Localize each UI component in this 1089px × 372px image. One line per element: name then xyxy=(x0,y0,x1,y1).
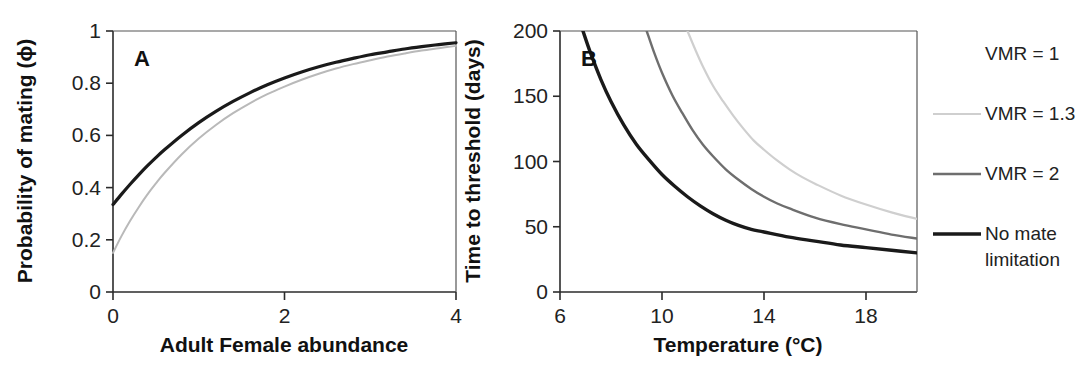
panel-a-yticks-label: 1 xyxy=(89,19,101,42)
panel-a-letter: A xyxy=(134,46,150,71)
series-line xyxy=(583,31,917,253)
panel-a-x-axis-title: Adult Female abundance xyxy=(160,333,409,356)
panel-a-yticks-label: 0.6 xyxy=(72,123,101,146)
panel-a-series-group xyxy=(113,43,456,253)
panel-a-yticks-label: 0.8 xyxy=(72,71,101,94)
panel-b-letter: B xyxy=(581,46,597,71)
panel-a-xticks-label: 0 xyxy=(107,304,119,327)
panel-b-y-ticks: 050100150200 xyxy=(513,19,560,303)
panel-b-x-axis-title: Temperature (°C) xyxy=(653,333,822,356)
panel-b-yticks-label: 150 xyxy=(513,84,548,107)
panel-b-xticks-label: 18 xyxy=(854,304,877,327)
panel-a-yticks-label: 0 xyxy=(89,280,101,303)
legend-label: VMR = 1 xyxy=(985,43,1059,64)
legend-label-line2: limitation xyxy=(985,249,1060,270)
series-line xyxy=(113,43,456,205)
legend: VMR = 1VMR = 1.3VMR = 2No matelimitation xyxy=(933,43,1075,270)
panel-a-yticks-label: 0.4 xyxy=(72,176,102,199)
panel-a-y-axis-title: Probability of mating (ϕ) xyxy=(13,39,36,283)
panel-a-xticks-label: 2 xyxy=(279,304,291,327)
panel-b-y-axis-title: Time to threshold (days) xyxy=(461,39,484,282)
panel-b-xticks-label: 6 xyxy=(554,304,566,327)
panel-a-yticks-label: 0.2 xyxy=(72,228,101,251)
figure-svg: 00.20.40.60.81 024 A Adult Female abunda… xyxy=(0,0,1089,372)
panel-b-yticks-label: 50 xyxy=(525,215,548,238)
legend-label: VMR = 2 xyxy=(985,163,1059,184)
panel-b-series-group xyxy=(583,31,917,253)
legend-label: VMR = 1.3 xyxy=(985,103,1075,124)
panel-b-yticks-label: 100 xyxy=(513,150,548,173)
panel-b-x-ticks: 6101418 xyxy=(554,292,878,327)
panel-a-xticks-label: 4 xyxy=(450,304,462,327)
legend-label: No mate xyxy=(985,223,1057,244)
panel-b: 050100150200 6101418 B Temperature (°C) … xyxy=(461,19,917,356)
panel-b-yticks-label: 0 xyxy=(536,280,548,303)
series-line xyxy=(688,31,918,219)
panel-a: 00.20.40.60.81 024 A Adult Female abunda… xyxy=(13,19,462,356)
panel-b-xticks-label: 14 xyxy=(752,304,776,327)
panel-b-yticks-label: 200 xyxy=(513,19,548,42)
panel-a-x-ticks: 024 xyxy=(107,292,462,327)
figure-container: 00.20.40.60.81 024 A Adult Female abunda… xyxy=(0,0,1089,372)
panel-b-xticks-label: 10 xyxy=(650,304,673,327)
panel-a-y-ticks: 00.20.40.60.81 xyxy=(72,19,113,303)
